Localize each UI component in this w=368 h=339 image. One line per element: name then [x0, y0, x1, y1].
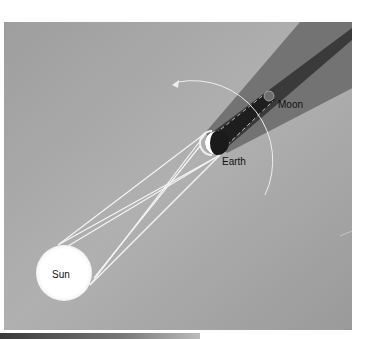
moon-label: Moon	[278, 99, 303, 110]
earth-label: Earth	[222, 156, 246, 167]
moon-body	[264, 91, 274, 101]
lunar-eclipse-diagram: Sun Earth Moon	[0, 0, 368, 339]
sun-label: Sun	[52, 269, 70, 280]
page-edge-strip	[0, 333, 200, 339]
